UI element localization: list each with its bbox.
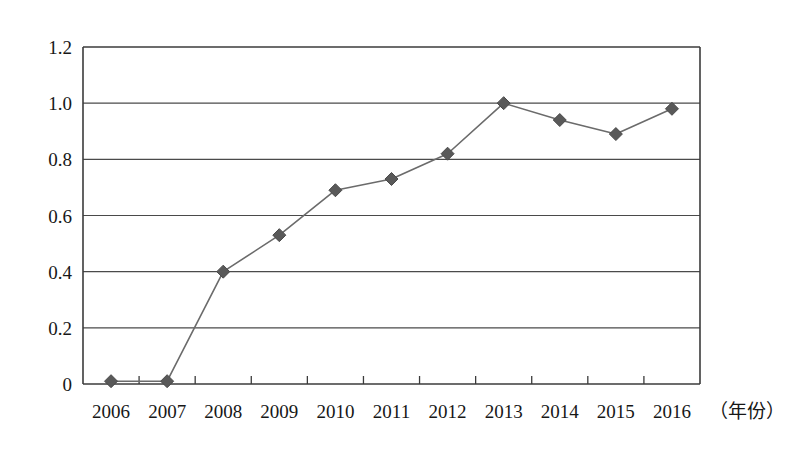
x-axis-tick-label: 2016 [653, 401, 691, 422]
x-axis-tick-label: 2010 [316, 401, 354, 422]
x-axis-tick-labels: 2006200720082009201020112012201320142015… [92, 401, 691, 422]
y-axis-tick-label: 1.0 [48, 93, 72, 114]
y-axis-tick-label: 0 [63, 374, 73, 395]
x-axis-tick-label: 2012 [429, 401, 467, 422]
y-axis-tick-label: 0.4 [48, 262, 72, 283]
line-chart: 00.20.40.60.81.01.2 20062007200820092010… [0, 0, 806, 454]
y-axis-tick-label: 0.2 [48, 318, 72, 339]
x-axis-tick-label: 2007 [148, 401, 186, 422]
y-axis-tick-label: 0.8 [48, 149, 72, 170]
x-axis-tick-label: 2013 [485, 401, 523, 422]
x-axis-tick-label: 2011 [373, 401, 410, 422]
y-axis-tick-label: 1.2 [48, 37, 72, 58]
x-axis-tick-label: 2014 [541, 401, 580, 422]
x-axis-tick-label: 2009 [260, 401, 298, 422]
y-axis-tick-labels: 00.20.40.60.81.01.2 [48, 37, 72, 395]
x-axis-tick-label: 2015 [597, 401, 635, 422]
chart-canvas: 00.20.40.60.81.01.2 20062007200820092010… [0, 0, 806, 454]
x-axis-tick-label: 2008 [204, 401, 242, 422]
x-axis-caption: （年份） [709, 401, 785, 422]
y-axis-tick-label: 0.6 [48, 206, 72, 227]
x-axis-tick-label: 2006 [92, 401, 130, 422]
